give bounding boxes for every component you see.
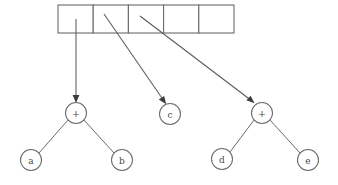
edge-plus2-to-e <box>270 120 300 153</box>
node-e[interactable]: e <box>298 150 319 171</box>
edge-plus1-to-b <box>84 120 114 153</box>
array-cell-3[interactable] <box>164 5 199 33</box>
edge-plus1-to-a <box>39 120 68 153</box>
node-b-label: b <box>119 156 125 166</box>
array-cell-4[interactable] <box>199 5 234 33</box>
edge-plus2-to-d <box>230 120 254 152</box>
array-cell-2[interactable] <box>128 5 163 33</box>
array-cell-1[interactable] <box>93 5 128 33</box>
node-d-label: d <box>219 155 225 165</box>
node-c-label: c <box>167 110 172 120</box>
pointer-arrowhead-0 <box>73 95 80 103</box>
node-plus1-label: + <box>72 108 80 119</box>
node-b[interactable]: b <box>112 150 133 171</box>
tree-nodes: + a b c + d <box>21 103 319 171</box>
expression-tree-diagram: + a b c + d <box>0 0 338 185</box>
node-plus2-label: + <box>258 108 266 119</box>
node-e-label: e <box>305 156 310 166</box>
node-a[interactable]: a <box>21 150 42 171</box>
node-c[interactable]: c <box>160 104 181 125</box>
pointer-array <box>58 5 234 33</box>
node-a-label: a <box>28 156 34 166</box>
node-plus2[interactable]: + <box>252 103 273 124</box>
pointer-arrowhead-1 <box>159 96 167 104</box>
node-plus1[interactable]: + <box>66 103 87 124</box>
node-d[interactable]: d <box>212 149 233 170</box>
diagram-canvas: + a b c + d <box>0 0 338 185</box>
pointer-arrowhead-2 <box>246 96 254 104</box>
